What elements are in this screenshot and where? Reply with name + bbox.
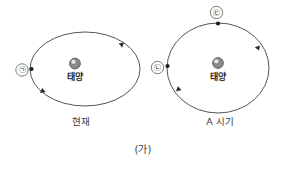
panel-caption-period-a: A 시기	[206, 116, 234, 127]
orbit-node-marker-a	[29, 67, 33, 71]
figure-container: ㉠ 태양 현재 ㉡	[0, 0, 287, 171]
sun-present	[70, 58, 81, 69]
marker-b-label: ㉡	[154, 64, 161, 72]
panel-caption-present: 현재	[72, 116, 90, 127]
sun-highlight-present	[71, 60, 75, 64]
sun-disc-period-a	[213, 58, 224, 69]
marker-c-label: ㉢	[213, 9, 220, 17]
sun-label-present: 태양	[67, 71, 84, 82]
sun-highlight-period-a	[214, 59, 218, 63]
orbit-diagram: ㉠ 태양 현재 ㉡	[0, 0, 287, 171]
direction-arrow-upper-right-present	[119, 43, 124, 48]
panel-period-a: ㉡ ㉢ 태양 A 시기	[151, 6, 269, 127]
panel-present: ㉠ 태양 현재	[16, 32, 140, 127]
direction-arrow-upper-right-period-a	[255, 46, 260, 51]
marker-c: ㉢	[210, 6, 222, 18]
sun-period-a	[213, 58, 224, 69]
orbit-node-marker-c	[216, 21, 220, 25]
sun-disc-present	[70, 58, 81, 69]
sun-label-period-a: 태양	[210, 71, 227, 82]
figure-caption: (가)	[135, 144, 152, 155]
direction-arrow-lower-left-period-a	[176, 86, 182, 91]
orbit-node-marker-b	[165, 64, 169, 68]
marker-a-label: ㉠	[19, 66, 26, 74]
marker-a: ㉠	[16, 64, 28, 76]
marker-b: ㉡	[151, 61, 163, 73]
